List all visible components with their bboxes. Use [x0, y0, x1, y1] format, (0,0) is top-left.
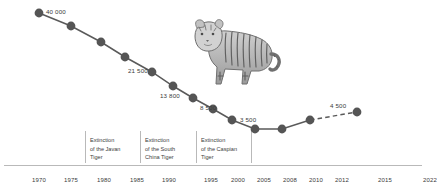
- annotation-line: Tiger: [201, 153, 249, 162]
- data-point: [228, 116, 237, 125]
- data-point: [306, 116, 315, 125]
- annotation-line: Extinction: [90, 136, 138, 145]
- x-tick-2015: 2015: [378, 177, 392, 183]
- data-label-8500: 8 500: [200, 105, 216, 111]
- annotation-line: China Tiger: [145, 153, 193, 162]
- annotation-line: of the Caspian: [201, 145, 249, 154]
- series-line-dashed: [310, 112, 357, 120]
- data-label-4500: 4 500: [330, 103, 346, 109]
- annotation-line: Tiger: [90, 153, 138, 162]
- data-point: [97, 38, 106, 47]
- data-label-13800: 13 800: [160, 93, 180, 99]
- annotation-javan-tiger: Extinction of the Javan Tiger: [86, 136, 138, 162]
- x-tick-1990: 1990: [162, 177, 176, 183]
- data-point: [148, 68, 157, 77]
- x-tick-1980: 1980: [97, 177, 111, 183]
- x-tick-2005: 2005: [257, 177, 271, 183]
- x-tick-1995: 1995: [204, 177, 218, 183]
- data-label-40000: 40 000: [46, 9, 66, 15]
- x-tick-2000: 2000: [231, 177, 245, 183]
- x-tick-2008: 2008: [283, 177, 297, 183]
- data-label-21500: 21 500: [128, 68, 148, 74]
- data-point: [169, 82, 178, 91]
- x-tick-1985: 1985: [130, 177, 144, 183]
- data-label-3500: 3 500: [240, 117, 256, 123]
- annotation-south-china-tiger: Extinction of the South China Tiger: [141, 136, 193, 162]
- x-tick-2010: 2010: [309, 177, 323, 183]
- data-point: [189, 94, 198, 103]
- data-point: [353, 108, 362, 117]
- x-tick-2022: 2022: [423, 177, 437, 183]
- x-tick-1970: 1970: [32, 177, 46, 183]
- annotation-line: of the South: [145, 145, 193, 154]
- data-point: [121, 53, 130, 62]
- data-point: [251, 125, 260, 134]
- annotation-line: Extinction: [201, 136, 249, 145]
- data-point: [278, 125, 287, 134]
- x-tick-1975: 1975: [64, 177, 78, 183]
- series-line-solid: [39, 13, 310, 129]
- data-point: [35, 9, 44, 18]
- series-markers: [35, 9, 362, 134]
- annotation-line: of the Javan: [90, 145, 138, 154]
- annotation-line: Extinction: [145, 136, 193, 145]
- data-point: [67, 22, 76, 31]
- x-tick-2012: 2012: [335, 177, 349, 183]
- annotation-caspian-tiger: Extinction of the Caspian Tiger: [197, 136, 249, 162]
